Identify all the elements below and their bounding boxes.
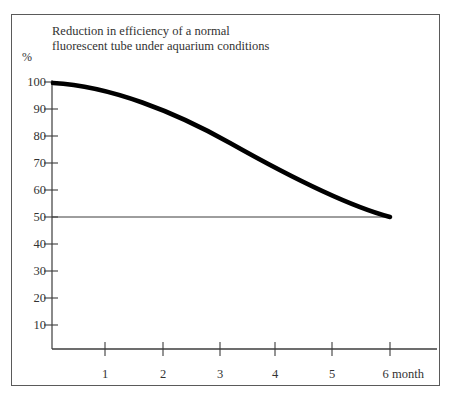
y-tick-label-10: 10 xyxy=(12,318,46,333)
chart-title: Reduction in efficiency of a normal fluo… xyxy=(52,24,352,54)
x-tick-label-3: 3 xyxy=(217,367,223,382)
y-tick-label-50: 50 xyxy=(12,210,46,225)
x-tick-label-4: 4 xyxy=(272,367,278,382)
y-tick-label-80: 80 xyxy=(12,129,46,144)
y-tick-label-20: 20 xyxy=(12,291,46,306)
y-tick-label-60: 60 xyxy=(12,183,46,198)
y-axis-unit-label: % xyxy=(22,50,32,65)
y-tick-label-40: 40 xyxy=(12,237,46,252)
y-tick-label-100: 100 xyxy=(12,75,46,90)
y-tick-label-70: 70 xyxy=(12,156,46,171)
x-tick-label-6-month: 6 month xyxy=(383,367,424,382)
x-tick-label-2: 2 xyxy=(160,367,166,382)
x-tick-label-5: 5 xyxy=(329,367,335,382)
y-tick-label-90: 90 xyxy=(12,102,46,117)
chart-frame xyxy=(11,14,440,386)
x-tick-label-1: 1 xyxy=(102,367,108,382)
y-tick-label-30: 30 xyxy=(12,264,46,279)
